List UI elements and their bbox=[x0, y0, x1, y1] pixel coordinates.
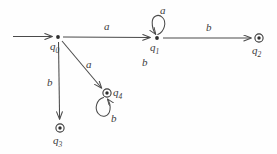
state-node-q1[interactable] bbox=[155, 36, 159, 40]
edge-label-q0-q1: a bbox=[104, 21, 110, 32]
transition-q4-self-loop bbox=[96, 98, 110, 117]
state-node-q2[interactable] bbox=[255, 34, 263, 42]
edge-label-q0-q3: b bbox=[47, 77, 53, 88]
loop-label-q1: a bbox=[160, 5, 166, 16]
transition-q1-self-loop bbox=[152, 15, 165, 34]
edge-q0-q4-line bbox=[62, 41, 102, 88]
transition-q0-q4 bbox=[62, 41, 102, 88]
loop-q4-path bbox=[96, 98, 110, 117]
state-label-q3: q3 bbox=[53, 135, 62, 149]
state-node-q0[interactable] bbox=[56, 35, 60, 39]
edge-label-q0-q4: a bbox=[86, 59, 92, 70]
stray-label-b: b bbox=[142, 57, 148, 68]
edge-q0-q1-line bbox=[63, 37, 150, 38]
edge-label-q1-q2: b bbox=[206, 22, 212, 33]
loop-q1-path bbox=[152, 15, 165, 34]
state-label-q1-sub: 1 bbox=[156, 47, 160, 56]
state-label-q2-sub: 2 bbox=[258, 50, 262, 59]
state-node-q3[interactable] bbox=[56, 124, 64, 132]
state-label-q4-sub: 4 bbox=[119, 92, 123, 101]
transition-q0-q1 bbox=[63, 37, 150, 38]
automaton-diagram: q0 q1 q2 q3 q4 a b b a a b b bbox=[0, 0, 277, 154]
state-label-q4: q4 bbox=[113, 87, 122, 101]
state-node-q4[interactable] bbox=[103, 89, 111, 97]
loop-label-q4: b bbox=[111, 113, 117, 124]
state-label-q2: q2 bbox=[252, 45, 261, 59]
state-label-q1: q1 bbox=[150, 42, 159, 56]
state-label-q3-sub: 3 bbox=[59, 140, 63, 149]
state-label-q0-sub: 0 bbox=[56, 46, 60, 55]
state-label-q0: q0 bbox=[50, 41, 59, 55]
diagram-canvas bbox=[0, 0, 277, 154]
